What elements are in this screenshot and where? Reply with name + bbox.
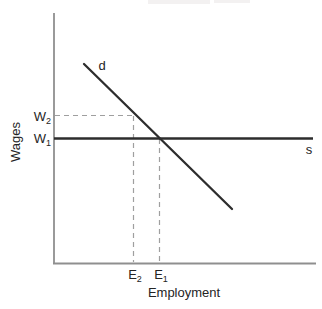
w2-label-sub: 2 xyxy=(46,116,51,126)
w1-label-main: W xyxy=(34,131,47,146)
figure: d s W2 W1 E2 E1 Wages Employment xyxy=(0,0,322,309)
y-axis-title: Wages xyxy=(8,122,23,162)
supply-curve-label: s xyxy=(306,142,313,157)
w2-label: W2 xyxy=(34,109,51,126)
e2-label-main: E xyxy=(128,267,137,282)
wage-employment-chart: d s W2 W1 E2 E1 Wages Employment xyxy=(0,0,322,309)
e1-label: E1 xyxy=(154,267,168,284)
e1-label-sub: 1 xyxy=(163,274,168,284)
demand-curve-line xyxy=(84,64,232,209)
w1-label: W1 xyxy=(34,131,51,148)
e2-label: E2 xyxy=(128,267,142,284)
scan-artifact-left xyxy=(148,0,210,4)
scan-artifact-right xyxy=(214,0,250,3)
x-axis-title: Employment xyxy=(148,285,221,300)
w2-label-main: W xyxy=(34,109,47,124)
w1-label-sub: 1 xyxy=(46,138,51,148)
demand-curve-label: d xyxy=(98,58,105,73)
e2-label-sub: 2 xyxy=(137,274,142,284)
e1-label-main: E xyxy=(154,267,163,282)
